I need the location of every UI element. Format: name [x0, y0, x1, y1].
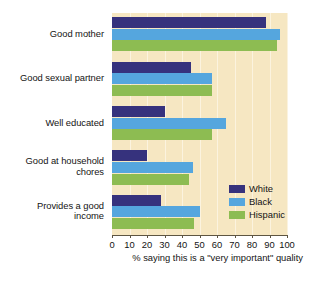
- category-label-line: Good sexual partner: [0, 73, 104, 84]
- bar-white-5: [112, 195, 161, 206]
- category-label-line: income: [0, 211, 104, 222]
- bar-black-5: [112, 206, 200, 217]
- x-tick-mark: [130, 235, 131, 238]
- bar-white-4: [112, 150, 147, 161]
- x-tick-label: 100: [274, 239, 300, 250]
- x-tick-mark: [112, 235, 113, 238]
- legend-label: Hispanic: [249, 210, 285, 220]
- x-tick-mark: [182, 235, 183, 238]
- legend-item-hispanic: Hispanic: [229, 209, 287, 221]
- bar-white-2: [112, 62, 191, 73]
- source-note: [22, 272, 310, 280]
- legend-label: Black: [249, 197, 272, 207]
- legend-swatch-black: [229, 198, 245, 206]
- x-tick-mark: [270, 235, 271, 238]
- bar-black-1: [112, 29, 280, 40]
- legend-swatch-hispanic: [229, 211, 245, 219]
- category-label-3: Well educated: [0, 118, 104, 129]
- legend-swatch-white: [229, 185, 245, 193]
- category-label-line: chores: [0, 167, 104, 178]
- x-axis-title: % saying this is a "very important" qual…: [0, 252, 303, 263]
- category-label-5: Provides a goodincome: [0, 201, 104, 222]
- bar-black-4: [112, 162, 193, 173]
- category-label-line: Good mother: [0, 29, 104, 40]
- x-tick-mark: [217, 235, 218, 238]
- bar-black-2: [112, 73, 212, 84]
- category-axis-labels: Good motherGood sexual partnerWell educa…: [0, 13, 108, 235]
- legend-label: White: [249, 184, 273, 194]
- bar-hispanic-2: [112, 85, 212, 96]
- bar-hispanic-3: [112, 129, 212, 140]
- x-tick-mark: [287, 235, 288, 238]
- bar-hispanic-5: [112, 218, 194, 229]
- chart-legend: WhiteBlackHispanic: [229, 183, 287, 222]
- legend-item-white: White: [229, 183, 287, 195]
- x-tick-mark: [147, 235, 148, 238]
- bar-chart-figure: Good motherGood sexual partnerWell educa…: [0, 0, 310, 281]
- category-label-1: Good mother: [0, 29, 104, 40]
- gridline: [287, 13, 288, 235]
- x-tick-mark: [252, 235, 253, 238]
- bar-white-1: [112, 17, 266, 28]
- x-tick-mark: [235, 235, 236, 238]
- bar-white-3: [112, 106, 165, 117]
- bar-hispanic-1: [112, 40, 277, 51]
- legend-item-black: Black: [229, 196, 287, 208]
- x-tick-mark: [165, 235, 166, 238]
- category-label-line: Well educated: [0, 118, 104, 129]
- category-label-4: Good at householdchores: [0, 156, 104, 177]
- bar-hispanic-4: [112, 174, 189, 185]
- x-tick-mark: [200, 235, 201, 238]
- category-label-2: Good sexual partner: [0, 73, 104, 84]
- bar-black-3: [112, 118, 226, 129]
